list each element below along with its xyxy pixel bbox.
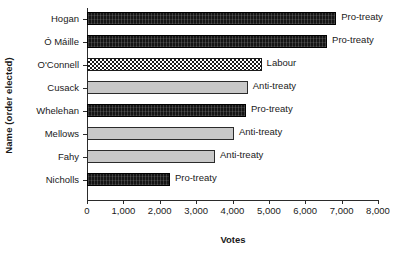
x-tick-mark: [269, 200, 270, 204]
bar-o-maille[interactable]: [87, 35, 327, 48]
x-tick-label: 1,000: [111, 205, 135, 216]
y-tick-label: O'Connell: [38, 59, 79, 70]
bar-mellows[interactable]: [87, 127, 234, 140]
y-tick-label: Ó Máille: [44, 36, 79, 47]
x-tick-label: 6,000: [293, 205, 317, 216]
bar-annotation-o-maille: Pro-treaty: [332, 34, 374, 45]
y-axis-title-label: Name (order elected): [3, 57, 14, 154]
bar-annotation-mellows: Anti-treaty: [239, 126, 282, 137]
bar-fahy[interactable]: [87, 150, 215, 163]
x-tick-mark: [378, 200, 379, 204]
x-tick-mark: [160, 200, 161, 204]
y-axis-title: Name (order elected): [0, 0, 16, 210]
bar-cusack[interactable]: [87, 81, 248, 94]
y-tick-label: Hogan: [51, 13, 79, 24]
y-tick-label: Whelehan: [36, 105, 79, 116]
y-tick-label: Cusack: [47, 82, 79, 93]
bar-annotation-fahy: Anti-treaty: [220, 149, 263, 160]
x-tick-mark: [196, 200, 197, 204]
bar-chart: Name (order elected) Hogan Ó Máille O'Co…: [0, 0, 409, 255]
x-axis-ticks: 01,0002,0003,0004,0005,0006,0007,0008,00…: [87, 200, 379, 216]
x-tick-label: 5,000: [257, 205, 281, 216]
y-axis-category-labels: Hogan Ó Máille O'Connell Cusack Whelehan…: [16, 8, 83, 200]
x-tick-label: 7,000: [330, 205, 354, 216]
x-tick-label: 8,000: [366, 205, 390, 216]
bar-whelehan[interactable]: [87, 104, 246, 117]
bar-annotation-cusack: Anti-treaty: [253, 80, 296, 91]
bar-hogan[interactable]: [87, 12, 336, 25]
x-tick-label: 2,000: [148, 205, 172, 216]
bar-annotation-hogan: Pro-treaty: [341, 11, 383, 22]
plot-area: Pro-treaty Pro-treaty Labour Anti-treaty…: [87, 8, 378, 200]
bar-annotation-oconnell: Labour: [267, 57, 297, 68]
y-tick-label: Fahy: [58, 151, 79, 162]
x-tick-mark: [342, 200, 343, 204]
bar-nicholls[interactable]: [87, 173, 170, 186]
bar-annotation-whelehan: Pro-treaty: [251, 103, 293, 114]
bar-oconnell[interactable]: [87, 58, 262, 71]
x-tick-label: 4,000: [221, 205, 245, 216]
x-tick-mark: [233, 200, 234, 204]
x-tick-label: 0: [84, 205, 89, 216]
y-tick-label: Nicholls: [46, 174, 79, 185]
bar-annotation-nicholls: Pro-treaty: [175, 172, 217, 183]
y-tick-label: Mellows: [45, 128, 79, 139]
x-tick-mark: [87, 200, 88, 204]
x-axis-title: Votes: [87, 234, 379, 245]
x-tick-label: 3,000: [184, 205, 208, 216]
x-tick-mark: [123, 200, 124, 204]
x-tick-mark: [305, 200, 306, 204]
